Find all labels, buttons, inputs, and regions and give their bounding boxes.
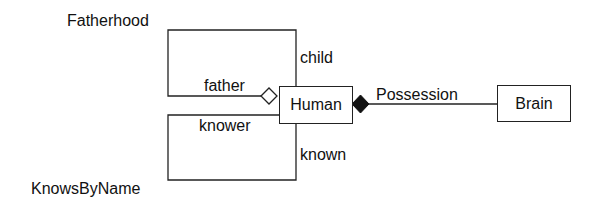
father-role-label: father <box>204 78 245 94</box>
fatherhood-label: Fatherhood <box>67 13 149 29</box>
class-human[interactable]: Human <box>279 86 353 124</box>
known-role-label: known <box>300 147 346 163</box>
possession-label: Possession <box>376 87 458 103</box>
composition-diamond-icon <box>352 95 369 113</box>
class-human-name: Human <box>290 96 342 114</box>
knower-role-label: knower <box>199 118 251 134</box>
child-role-label: child <box>300 50 333 66</box>
knowsbyname-label: KnowsByName <box>31 181 140 197</box>
class-brain[interactable]: Brain <box>497 85 571 122</box>
aggregation-diamond-icon <box>261 88 277 104</box>
class-brain-name: Brain <box>515 95 552 113</box>
